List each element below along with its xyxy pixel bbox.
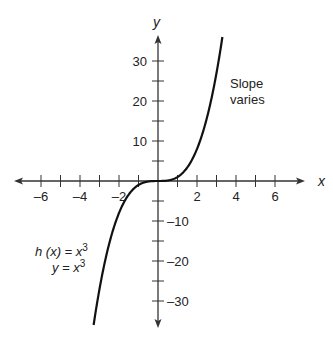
x-tick-label: 6 <box>271 189 278 204</box>
x-tick-label: –4 <box>73 189 87 204</box>
slope-annotation-line2: varies <box>230 92 265 107</box>
equation-line2: y = x3 <box>51 258 86 275</box>
cubic-function-chart: –6–4–2246302010–10–20–30 x y Slope varie… <box>0 0 333 342</box>
y-tick-label: –30 <box>167 294 189 309</box>
y-tick-label: –10 <box>167 214 189 229</box>
x-tick-label: 4 <box>232 189 239 204</box>
x-tick-label: –6 <box>34 189 48 204</box>
x-tick-label: 2 <box>193 189 200 204</box>
y-axis-label: y <box>152 14 161 30</box>
y-tick-label: 30 <box>133 54 147 69</box>
x-axis-label: x <box>317 173 326 189</box>
slope-annotation-line1: Slope <box>230 76 263 91</box>
y-tick-label: 10 <box>133 134 147 149</box>
equation-line1: h (x) = x3 <box>35 242 88 259</box>
y-tick-label: 20 <box>133 94 147 109</box>
y-tick-label: –20 <box>167 254 189 269</box>
